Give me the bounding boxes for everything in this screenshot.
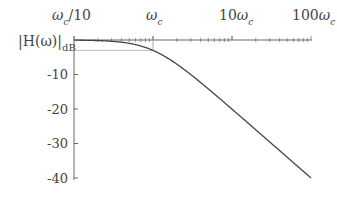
bode-magnitude-chart: ωc/10 ωc 10ωc 100ωc |H(ω)|dB -10 -20 -30…	[0, 0, 337, 198]
y-axis-label: |H(ω)|dB	[18, 33, 76, 53]
magnitude-curve	[74, 40, 311, 178]
y-tick-label: -20	[47, 102, 68, 117]
x-tick-label-100wc: 100ωc	[292, 7, 335, 27]
y-tick-label: -30	[47, 136, 68, 151]
x-tick-label-wc: ωc	[146, 7, 162, 27]
y-axis-ticks	[74, 75, 78, 179]
x-tick-label-wc-over-10: ωc/10	[52, 7, 91, 27]
x-tick-label-10wc: 10ωc	[219, 7, 253, 27]
y-tick-label: -10	[47, 67, 68, 82]
y-tick-label: -40	[47, 171, 68, 186]
